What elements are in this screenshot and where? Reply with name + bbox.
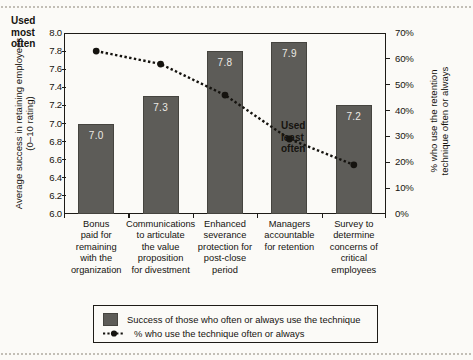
y-tick-left-6.6: 6.6 bbox=[36, 155, 62, 165]
y-axis-right-ticks: 0%10%20%30%40%50%60%70% bbox=[386, 33, 426, 214]
x-category-line: proposition bbox=[125, 253, 197, 264]
annotation-least-line1: Used bbox=[281, 120, 305, 132]
x-category-line: critical bbox=[318, 253, 390, 264]
x-category-line: period bbox=[189, 265, 261, 276]
legend-swatch-icon bbox=[103, 313, 118, 326]
x-category-label-1: Communicationsto articulatethe valueprop… bbox=[125, 219, 197, 276]
y-tickmark-right bbox=[386, 110, 390, 111]
y-tick-left-8.0: 8.0 bbox=[36, 28, 62, 38]
x-category-line: Survey to bbox=[318, 219, 390, 230]
x-axis-categories: Bonuspaid forremainingwith theorganizati… bbox=[64, 219, 386, 291]
y-tick-left-7.0: 7.0 bbox=[36, 119, 62, 129]
y-axis-right-title: % who use the retention technique often … bbox=[428, 26, 450, 216]
y-tick-right-40: 40% bbox=[395, 106, 414, 116]
x-tickmark bbox=[128, 214, 129, 218]
x-category-line: organization bbox=[60, 265, 132, 276]
y-tick-right-70: 70% bbox=[395, 28, 414, 38]
y-tick-right-30: 30% bbox=[395, 131, 414, 141]
x-category-line: for retention bbox=[253, 242, 325, 253]
bar-0: 7.0 bbox=[78, 124, 114, 215]
y-tick-right-60: 60% bbox=[395, 54, 414, 64]
bar-value-label-3: 7.9 bbox=[272, 48, 306, 59]
x-tickmark bbox=[193, 214, 194, 218]
y-tick-left-6.2: 6.2 bbox=[36, 191, 62, 201]
x-category-label-0: Bonuspaid forremainingwith theorganizati… bbox=[60, 219, 132, 276]
y-axis-right-title-line1: % who use the retention bbox=[428, 70, 439, 173]
y-tickmark-right bbox=[386, 136, 390, 137]
legend-dotted-line-icon bbox=[103, 328, 125, 339]
x-category-line: employees bbox=[318, 265, 390, 276]
bar-1: 7.3 bbox=[143, 96, 179, 214]
y-axis-right-title-line2: technique often or always bbox=[439, 26, 450, 216]
bar-value-label-0: 7.0 bbox=[79, 130, 113, 141]
x-category-line: determine bbox=[318, 230, 390, 241]
y-axis-left-ticks: 6.06.26.46.66.87.07.27.47.67.88.0 bbox=[32, 33, 62, 214]
y-axis-left-title-line1: Average success in retaining employees bbox=[13, 38, 24, 210]
bar-2: 7.8 bbox=[207, 51, 243, 214]
chart-figure: Average success in retaining employees (… bbox=[0, 0, 473, 360]
x-tickmark bbox=[64, 214, 65, 218]
x-category-line: Enhanced bbox=[189, 219, 261, 230]
legend-item-bars: Success of those who often or always use… bbox=[103, 313, 360, 326]
bar-value-label-2: 7.8 bbox=[208, 57, 242, 68]
x-category-label-3: Managersaccountablefor retention bbox=[253, 219, 325, 253]
legend-label-bars: Success of those who often or always use… bbox=[127, 315, 360, 325]
x-category-line: with the bbox=[60, 253, 132, 264]
annotation-most-line3: often bbox=[11, 38, 35, 50]
y-tick-right-10: 10% bbox=[395, 183, 414, 193]
y-tick-left-6.8: 6.8 bbox=[36, 137, 62, 147]
y-tick-left-6.4: 6.4 bbox=[36, 173, 62, 183]
y-tick-left-7.2: 7.2 bbox=[36, 100, 62, 110]
y-tick-left-7.6: 7.6 bbox=[36, 64, 62, 74]
y-tickmark-right bbox=[386, 84, 390, 85]
y-tick-left-7.8: 7.8 bbox=[36, 46, 62, 56]
x-category-line: remaining bbox=[60, 242, 132, 253]
x-tickmark bbox=[257, 214, 258, 218]
y-tick-right-50: 50% bbox=[395, 80, 414, 90]
legend-label-line: % who use the technique often or always bbox=[134, 329, 304, 339]
x-category-label-4: Survey todetermineconcerns ofcriticalemp… bbox=[318, 219, 390, 276]
y-tick-right-20: 20% bbox=[395, 157, 414, 167]
x-category-line: the value bbox=[125, 242, 197, 253]
y-tick-right-0: 0% bbox=[395, 209, 408, 219]
bar-value-label-4: 7.2 bbox=[337, 111, 371, 122]
y-tickmark-right bbox=[386, 188, 390, 189]
y-tick-left-7.4: 7.4 bbox=[36, 82, 62, 92]
x-category-label-2: Enhancedseveranceprotection forpost-clos… bbox=[189, 219, 261, 276]
x-category-line: paid for bbox=[60, 230, 132, 241]
x-category-line: concerns of bbox=[318, 242, 390, 253]
annotation-least-line2: least bbox=[281, 132, 305, 144]
annotation-most-line2: most bbox=[11, 27, 35, 39]
x-category-line: accountable bbox=[253, 230, 325, 241]
x-category-line: Communications bbox=[125, 219, 197, 230]
x-category-line: for divestment bbox=[125, 265, 197, 276]
annotation-most-line1: Used bbox=[11, 15, 35, 27]
annotation-used-most-often: Used most often bbox=[11, 15, 35, 50]
x-tickmark bbox=[385, 214, 386, 218]
scan-edge-bottom bbox=[0, 353, 473, 355]
legend-item-line: % who use the technique often or always bbox=[103, 328, 304, 339]
x-category-line: Managers bbox=[253, 219, 325, 230]
chart-legend: Success of those who often or always use… bbox=[93, 305, 378, 343]
scan-edge-top bbox=[0, 6, 473, 8]
y-tick-left-6.0: 6.0 bbox=[36, 209, 62, 219]
bar-series: 7.07.37.87.97.2 bbox=[64, 33, 386, 214]
annotation-least-line3: often bbox=[281, 143, 305, 155]
x-tickmark bbox=[322, 214, 323, 218]
x-category-line: post-close bbox=[189, 253, 261, 264]
bar-4: 7.2 bbox=[336, 105, 372, 214]
annotation-used-least-often: Used least often bbox=[281, 120, 305, 155]
x-category-line: protection for bbox=[189, 242, 261, 253]
y-tickmark-right bbox=[386, 162, 390, 163]
x-category-line: Bonus bbox=[60, 219, 132, 230]
x-category-line: to articulate bbox=[125, 230, 197, 241]
bar-value-label-1: 7.3 bbox=[144, 102, 178, 113]
x-category-line: severance bbox=[189, 230, 261, 241]
y-tickmark-right bbox=[386, 58, 390, 59]
